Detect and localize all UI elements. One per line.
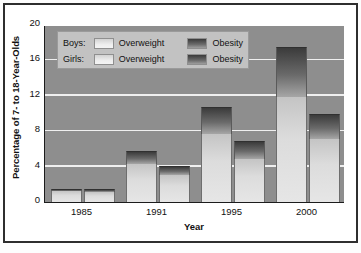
legend-swatch-girls-obesity [187,54,207,65]
bar-segment-girls-overweight [84,192,115,202]
legend-swatch-boys-overweight [94,38,114,49]
y-axis-tick-labels: 048121620 [22,22,40,207]
bar-segment-girls-overweight [234,159,265,202]
x-axis-title: Year [44,221,344,232]
bar-segment-girls-overweight [309,139,340,202]
y-tick-label: 20 [22,17,40,28]
x-axis-tick-labels: 1985199119952000 [44,206,344,222]
bar-segment-boys-overweight [276,97,307,202]
y-tick-label: 16 [22,52,40,63]
bar-girls-1991 [159,166,190,202]
bar-boys-1985 [51,189,82,202]
bar-segment-boys-obesity [126,151,157,164]
bar-segment-girls-obesity [234,141,265,159]
bar-boys-1995 [201,107,232,202]
bar-segment-boys-obesity [276,47,307,97]
bar-girls-2000 [309,114,340,202]
legend-row-girls: Girls: Overweight Obesity [63,51,243,67]
legend-swatch-girls-overweight [94,54,114,65]
bar-girls-1995 [234,141,265,202]
bar-segment-girls-overweight [159,175,190,202]
legend-row-boys: Boys: Overweight Obesity [63,35,243,51]
legend-group-girls: Girls: [63,54,94,64]
bar-segment-boys-overweight [126,164,157,202]
legend-swatch-boys-obesity [187,38,207,49]
y-tick-label: 4 [22,158,40,169]
legend-label-boys-overweight: Overweight [119,38,188,48]
bar-segment-boys-obesity [201,107,232,134]
y-tick-label: 12 [22,87,40,98]
y-axis-title: Percentage of 7- to 18-Year-Olds [10,18,21,198]
bar-boys-1991 [126,151,157,202]
bar-segment-girls-obesity [84,189,115,193]
bar-boys-2000 [276,47,307,202]
x-tick-label: 1991 [146,206,167,217]
x-tick-label: 1995 [221,206,242,217]
bar-segment-girls-obesity [159,166,190,176]
x-tick-label: 1985 [71,206,92,217]
bar-segment-girls-obesity [309,114,340,139]
x-tick-label: 2000 [296,206,317,217]
legend-label-girls-obesity: Obesity [212,54,243,64]
legend-group-boys: Boys: [63,38,94,48]
chart-legend: Boys: Overweight Obesity Girls: Overweig… [57,31,249,69]
bar-segment-boys-overweight [51,191,82,202]
bar-segment-boys-obesity [51,189,82,192]
chart-figure: Percentage of 7- to 18-Year-Olds 0481216… [0,0,361,253]
y-tick-label: 0 [22,194,40,205]
legend-label-boys-obesity: Obesity [212,38,243,48]
bar-segment-boys-overweight [201,134,232,202]
bar-girls-1985 [84,189,115,202]
legend-label-girls-overweight: Overweight [119,54,188,64]
y-tick-label: 8 [22,123,40,134]
